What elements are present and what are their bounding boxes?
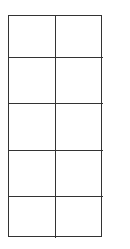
empty-grid-table bbox=[8, 15, 102, 237]
grid-cell-r3-c2 bbox=[56, 104, 103, 151]
grid-cell-r5-c2 bbox=[56, 197, 103, 238]
grid-cell-r2-c2 bbox=[56, 58, 103, 104]
grid-cell-r1-c2 bbox=[56, 16, 103, 58]
grid-cell-r4-c2 bbox=[56, 151, 103, 197]
grid-cell-r1-c1 bbox=[9, 16, 56, 58]
grid-cell-r5-c1 bbox=[9, 197, 56, 238]
grid-cell-r4-c1 bbox=[9, 151, 56, 197]
grid-cell-r2-c1 bbox=[9, 58, 56, 104]
grid-cell-r3-c1 bbox=[9, 104, 56, 151]
